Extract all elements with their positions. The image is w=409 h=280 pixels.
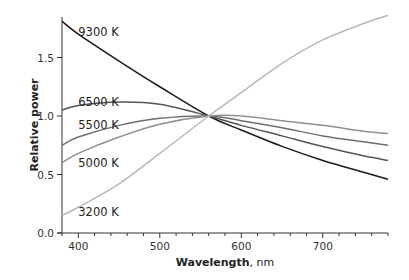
x-tick-label: 700 xyxy=(313,240,333,252)
y-tick-label: 1.5 xyxy=(37,52,54,64)
curve-label: 5000 K xyxy=(78,156,119,170)
curve-labels: 9300 K6500 K5500 K5000 K3200 K xyxy=(78,25,119,219)
y-tick-label: 0.0 xyxy=(37,227,54,239)
spectral-power-chart: 0.00.51.01.5400500600700 9300 K6500 K550… xyxy=(0,0,409,280)
x-axis-title: Wavelength, nm xyxy=(176,256,275,269)
curves xyxy=(62,15,388,215)
curve-label: 3200 K xyxy=(78,205,119,219)
curve-label: 9300 K xyxy=(78,25,119,39)
y-axis-title: Relative power xyxy=(28,78,41,172)
x-tick-label: 400 xyxy=(68,240,88,252)
curve-label: 5500 K xyxy=(78,118,119,132)
x-tick-label: 500 xyxy=(150,240,170,252)
x-tick-label: 600 xyxy=(231,240,251,252)
curve-label: 6500 K xyxy=(78,95,119,109)
